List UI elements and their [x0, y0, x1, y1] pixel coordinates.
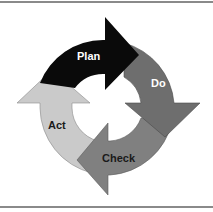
stage-label-check: Check: [102, 152, 135, 164]
stage-label-plan: Plan: [77, 50, 100, 62]
stage-label-act: Act: [48, 119, 66, 131]
stage-label-do: Do: [151, 77, 166, 89]
pdca-cycle-diagram: [0, 0, 213, 212]
